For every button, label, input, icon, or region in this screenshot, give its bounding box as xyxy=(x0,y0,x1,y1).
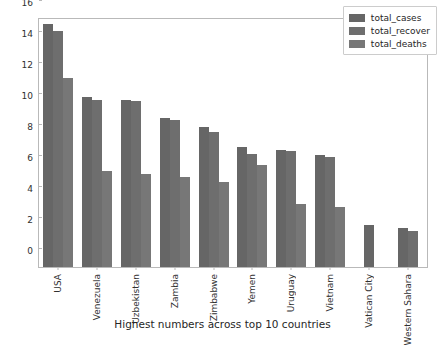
x-axis-tick-mark xyxy=(136,267,137,270)
bar-total_cases xyxy=(199,127,209,267)
bar-total_recover xyxy=(325,157,335,267)
bar-group xyxy=(275,19,307,267)
bar-group xyxy=(159,19,191,267)
legend-label-total-recover: total_recover xyxy=(371,26,430,36)
y-axis-tick: 16 xyxy=(22,0,39,10)
x-axis-tick: Zimbabwe xyxy=(209,267,218,321)
bar-total_deaths xyxy=(296,204,306,267)
bar-total_deaths xyxy=(219,182,229,267)
legend-item-total-cases: total_cases xyxy=(349,11,430,24)
x-axis-tick-mark xyxy=(368,267,369,270)
bar-group xyxy=(353,19,385,267)
y-axis-tick: 12 xyxy=(22,53,39,72)
bar-total_cases xyxy=(276,150,286,267)
y-axis-tick-label: 8 xyxy=(27,122,39,132)
bar-total_cases xyxy=(398,228,408,267)
bar-total_recover xyxy=(247,154,257,267)
y-axis-tick-label: 16 xyxy=(22,0,39,8)
y-axis-tick: 0 xyxy=(27,239,39,258)
legend-item-total-deaths: total_deaths xyxy=(349,37,430,50)
bar-total_recover xyxy=(131,101,141,267)
bar-total_deaths xyxy=(102,171,112,267)
bar-group xyxy=(120,19,152,267)
x-axis-tick: Venezuela xyxy=(93,267,102,320)
legend-label-total-deaths: total_deaths xyxy=(371,39,427,49)
bar-group xyxy=(236,19,268,267)
x-axis-tick-mark xyxy=(97,267,98,270)
x-axis-tick: Vietnam xyxy=(326,267,335,312)
x-axis-tick-mark xyxy=(174,267,175,270)
bar-total_deaths xyxy=(180,177,190,267)
x-axis-tick-mark xyxy=(252,267,253,270)
y-axis-tick: 8 xyxy=(27,115,39,134)
bar-total_recover xyxy=(408,231,418,267)
y-axis-tick-label: 2 xyxy=(27,215,39,225)
y-axis-tick: 4 xyxy=(27,177,39,196)
x-axis-tick: Uzbekistan xyxy=(132,267,141,324)
x-axis-tick: Uruguay xyxy=(287,267,296,312)
x-axis-tick-label: Zambia xyxy=(170,274,179,308)
x-axis-tick-label: Yemen xyxy=(248,274,257,304)
x-axis-tick: Western Sahara xyxy=(403,267,412,345)
bar-total_deaths xyxy=(63,78,73,267)
bar-total_cases xyxy=(43,24,53,267)
y-axis-tick-label: 10 xyxy=(22,91,39,101)
x-axis-tick-label: Zimbabwe xyxy=(209,274,218,321)
y-axis-tick: 10 xyxy=(22,84,39,103)
y-axis-tick-label: 4 xyxy=(27,184,39,194)
x-axis-tick-label: Uzbekistan xyxy=(132,274,141,324)
y-axis-tick-label: 0 xyxy=(27,246,39,256)
x-axis-tick: Yemen xyxy=(248,267,257,304)
x-axis-tick-label: Uruguay xyxy=(287,274,296,312)
x-axis-tick-mark xyxy=(213,267,214,270)
x-axis-tick-label: Vietnam xyxy=(326,274,335,312)
y-axis-tick: 6 xyxy=(27,146,39,165)
bar-total_cases xyxy=(364,225,374,267)
x-axis-tick-mark xyxy=(407,267,408,270)
x-axis-tick: USA xyxy=(54,267,63,293)
bar-group xyxy=(42,19,74,267)
bar-total_cases xyxy=(160,118,170,267)
bar-total_recover xyxy=(170,120,180,267)
bar-total_cases xyxy=(315,155,325,267)
x-axis-tick-label: USA xyxy=(54,274,63,293)
legend-swatch-total-deaths xyxy=(349,40,365,48)
legend-swatch-total-recover xyxy=(349,27,365,35)
bar-total_deaths xyxy=(335,207,345,267)
chart-legend: total_cases total_recover total_deaths xyxy=(343,6,437,55)
x-axis-title: Highest numbers across top 10 countries xyxy=(0,318,445,330)
bar-total_recover xyxy=(53,31,63,267)
x-axis-tick-label: Venezuela xyxy=(93,274,102,320)
plot-axes: 0246810121416USAVenezuelaUzbekistanZambi… xyxy=(38,18,428,268)
bar-total_deaths xyxy=(257,165,267,267)
bar-group xyxy=(198,19,230,267)
x-axis-tick-mark xyxy=(58,267,59,270)
x-axis-tick: Zambia xyxy=(170,267,179,308)
y-axis-tick: 14 xyxy=(22,22,39,41)
bar-total_recover xyxy=(92,100,102,267)
legend-swatch-total-cases xyxy=(349,14,365,22)
bar-group xyxy=(81,19,113,267)
bar-total_cases xyxy=(82,97,92,268)
plot-area: 0246810121416USAVenezuelaUzbekistanZambi… xyxy=(39,19,427,267)
y-axis-tick-label: 12 xyxy=(22,60,39,70)
bar-total_recover xyxy=(209,132,219,267)
x-axis-tick-label: Western Sahara xyxy=(403,274,412,345)
bar-group xyxy=(392,19,424,267)
bar-total_deaths xyxy=(141,174,151,267)
y-axis-tick-label: 6 xyxy=(27,153,39,163)
legend-item-total-recover: total_recover xyxy=(349,24,430,37)
bar-total_cases xyxy=(237,147,247,267)
bar-group xyxy=(314,19,346,267)
bar-total_recover xyxy=(286,151,296,267)
y-axis-tick-label: 14 xyxy=(22,29,39,39)
y-axis-tick-mark xyxy=(39,0,42,1)
legend-label-total-cases: total_cases xyxy=(371,13,421,23)
x-axis-tick-mark xyxy=(291,267,292,270)
y-axis-tick: 2 xyxy=(27,208,39,227)
bar-total_cases xyxy=(121,100,131,267)
x-axis-tick-mark xyxy=(330,267,331,270)
